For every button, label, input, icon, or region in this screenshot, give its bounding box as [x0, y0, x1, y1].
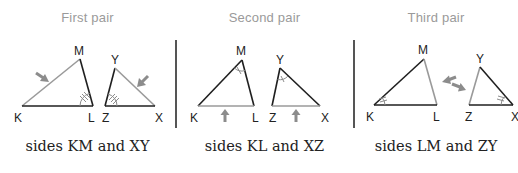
arrow-icon: [137, 76, 148, 87]
triangle-klm: K L M: [14, 44, 95, 125]
side-km: [198, 60, 242, 106]
arrow-up-icon: [292, 109, 301, 122]
vertex-label-y: Y: [476, 52, 484, 66]
vertex-label-k: K: [190, 111, 198, 125]
arrow-icon: [442, 76, 456, 85]
vertex-label-k: K: [366, 110, 374, 124]
vertex-label-l: L: [433, 110, 440, 124]
vertex-label-k: K: [14, 111, 22, 125]
arrow-up-icon: [221, 109, 230, 122]
side-km: [22, 59, 80, 106]
triangle-klm: K L M: [366, 43, 440, 124]
side-ml: [424, 59, 437, 105]
panel-caption: sides KL and XZ: [176, 138, 353, 154]
side-ml: [242, 60, 254, 106]
panel-second-pair: Second pair K L M Z X Y: [176, 0, 353, 173]
side-xy: [480, 67, 513, 105]
panel-third-pair: Third pair K L M: [354, 0, 518, 173]
triangle-zxy: Z X Y: [465, 52, 518, 124]
side-yz: [469, 67, 480, 105]
vertex-label-z: Z: [102, 111, 109, 125]
vertex-label-m: M: [418, 43, 428, 57]
side-xy: [115, 68, 155, 106]
vertex-label-x: X: [155, 111, 163, 125]
vertex-label-y: Y: [276, 53, 284, 67]
panel-caption: sides KM and XY: [0, 138, 175, 154]
vertex-label-y: Y: [111, 53, 119, 67]
vertex-label-z: Z: [269, 111, 276, 125]
triple-tick-mark-z: [109, 94, 119, 104]
vertex-label-l: L: [88, 111, 95, 125]
arrow-icon: [452, 83, 466, 92]
vertex-label-l: L: [252, 111, 259, 125]
panel-caption: sides LM and ZY: [354, 138, 518, 154]
vertex-label-x: X: [511, 110, 518, 124]
vertex-label-m: M: [236, 44, 246, 58]
vertex-label-m: M: [74, 44, 84, 58]
side-yz: [272, 68, 280, 106]
side-xy: [280, 68, 320, 106]
side-yz: [105, 68, 115, 106]
vertex-label-x: X: [321, 111, 329, 125]
panel-first-pair: First pair K L M: [0, 0, 175, 173]
triangle-zxy: Z X Y: [102, 53, 163, 125]
vertex-label-z: Z: [465, 110, 472, 124]
arrow-icon: [36, 73, 49, 82]
